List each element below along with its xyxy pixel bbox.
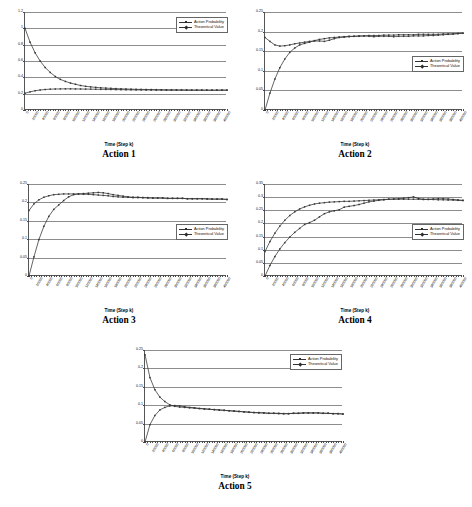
series-marker bbox=[48, 216, 50, 218]
y-axis-tick-label: 0.1 bbox=[138, 403, 143, 407]
series-marker bbox=[383, 199, 385, 201]
y-axis-tick-label: 0.8 bbox=[18, 43, 23, 47]
y-axis-tick-label: 0.2 bbox=[18, 92, 23, 96]
x-axis-tick-label: 380000 bbox=[213, 277, 222, 289]
series-marker bbox=[73, 193, 75, 195]
legend-item[interactable]: Theoretical Value bbox=[293, 362, 338, 367]
x-axis-tick-label: 140000 bbox=[95, 277, 104, 289]
series-marker bbox=[38, 239, 40, 241]
x-axis-tick-label: 40000 bbox=[162, 443, 170, 453]
series-marker bbox=[428, 199, 430, 201]
x-axis-tick-label: 220000 bbox=[370, 277, 379, 289]
series-marker bbox=[258, 412, 260, 414]
chart-legend[interactable]: Action ProbabilityTheoretical Value bbox=[412, 224, 464, 240]
x-axis-tick-label: 80000 bbox=[302, 111, 310, 121]
series-marker bbox=[149, 424, 151, 426]
x-axis-tick-label: 240000 bbox=[380, 111, 389, 123]
series-marker bbox=[100, 87, 102, 89]
series-marker bbox=[140, 89, 142, 91]
x-axis-tick-label: 40000 bbox=[282, 277, 290, 287]
series-marker bbox=[284, 242, 286, 244]
series-marker bbox=[24, 93, 26, 95]
series-marker bbox=[452, 33, 454, 35]
series-marker bbox=[201, 89, 203, 91]
series-marker bbox=[24, 28, 26, 30]
series-marker bbox=[50, 72, 52, 74]
series-marker bbox=[181, 89, 183, 91]
x-axis-tick-label: 0 bbox=[266, 277, 270, 280]
x-axis-tick-label: 160000 bbox=[341, 277, 350, 289]
panel-title: Action 4 bbox=[238, 315, 472, 325]
series-marker bbox=[164, 401, 166, 403]
x-axis-tick-label: 260000 bbox=[154, 277, 163, 289]
legend-marker-icon bbox=[415, 232, 428, 237]
series-marker bbox=[457, 200, 459, 202]
panel-title: Action 5 bbox=[118, 481, 352, 491]
series-marker bbox=[44, 89, 46, 91]
series-marker bbox=[105, 87, 107, 89]
legend-item[interactable]: Theoretical Value bbox=[179, 232, 224, 237]
x-axis-tick-label: 220000 bbox=[370, 111, 379, 123]
series-marker bbox=[368, 200, 370, 202]
x-axis-tick-label: 380000 bbox=[329, 443, 338, 455]
series-line bbox=[145, 406, 343, 442]
series-marker bbox=[288, 413, 290, 415]
y-axis-tick-label: 0.15 bbox=[256, 235, 263, 239]
x-axis-tick-label: 320000 bbox=[420, 111, 429, 123]
x-axis-tick-label: 160000 bbox=[341, 111, 350, 123]
x-axis-tick-label: 220000 bbox=[250, 443, 259, 455]
x-axis-tick-label: 320000 bbox=[183, 111, 192, 123]
series-marker bbox=[294, 211, 296, 213]
series-marker bbox=[299, 44, 301, 46]
legend-item[interactable]: Theoretical Value bbox=[179, 25, 224, 30]
series-marker bbox=[279, 45, 281, 47]
legend-label: Theoretical Value bbox=[430, 64, 460, 68]
series-marker bbox=[378, 36, 380, 38]
series-marker bbox=[132, 197, 134, 199]
series-marker bbox=[269, 92, 271, 94]
x-axis-tick-label: 220000 bbox=[132, 111, 141, 123]
legend-item[interactable]: Theoretical Value bbox=[415, 232, 460, 237]
series-marker bbox=[413, 196, 415, 198]
series-marker bbox=[279, 248, 281, 250]
series-marker bbox=[186, 89, 188, 91]
series-marker bbox=[115, 89, 117, 91]
x-axis-tick-label: 380000 bbox=[213, 111, 222, 123]
legend-item[interactable]: Theoretical Value bbox=[415, 64, 460, 69]
x-axis-tick-label: 80000 bbox=[66, 277, 74, 287]
series-marker bbox=[428, 35, 430, 37]
series-marker bbox=[154, 415, 156, 417]
series-marker bbox=[80, 88, 82, 90]
series-marker bbox=[339, 37, 341, 39]
series-marker bbox=[268, 413, 270, 415]
series-marker bbox=[63, 193, 65, 195]
series-marker bbox=[339, 209, 341, 211]
chart-legend[interactable]: Action ProbabilityTheoretical Value bbox=[176, 224, 228, 240]
y-axis-tick-label: 0.05 bbox=[20, 256, 27, 260]
series-marker bbox=[85, 86, 87, 88]
x-axis-tick-label: 120000 bbox=[321, 277, 330, 289]
series-marker bbox=[177, 198, 179, 200]
series-marker bbox=[363, 200, 365, 202]
series-marker bbox=[398, 199, 400, 201]
series-marker bbox=[78, 193, 80, 195]
series-marker bbox=[337, 413, 339, 415]
x-axis-tick-label: 200000 bbox=[240, 443, 249, 455]
legend-marker-icon bbox=[179, 232, 192, 237]
series-marker bbox=[284, 58, 286, 60]
x-axis-tick-label: 340000 bbox=[430, 277, 439, 289]
y-axis-tick-label: 0.25 bbox=[256, 208, 263, 212]
series-marker bbox=[289, 44, 291, 46]
legend-marker-icon bbox=[293, 362, 306, 367]
chart-legend[interactable]: Action ProbabilityTheoretical Value bbox=[290, 354, 342, 370]
series-marker bbox=[358, 200, 360, 202]
x-axis-tick-label: 80000 bbox=[63, 111, 71, 121]
chart-legend[interactable]: Action ProbabilityTheoretical Value bbox=[412, 56, 464, 72]
series-marker bbox=[329, 201, 331, 203]
series-marker bbox=[353, 200, 355, 202]
series-marker bbox=[135, 89, 137, 91]
chart-legend[interactable]: Action ProbabilityTheoretical Value bbox=[176, 17, 228, 33]
series-marker bbox=[329, 39, 331, 41]
x-axis-tick-label: 360000 bbox=[204, 277, 213, 289]
x-axis-title: Time (Step k) bbox=[2, 142, 236, 147]
